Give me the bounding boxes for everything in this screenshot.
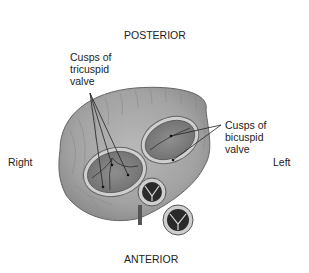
bicuspid-label: Cusps of bicuspid valve (225, 119, 266, 155)
orientation-left: Left (273, 156, 291, 168)
orientation-right: Right (8, 156, 33, 168)
orientation-posterior: POSTERIOR (124, 29, 186, 41)
coronary-artery (138, 205, 142, 225)
orientation-anterior: ANTERIOR (124, 253, 178, 265)
tricuspid-label: Cusps of tricuspid valve (70, 51, 111, 87)
